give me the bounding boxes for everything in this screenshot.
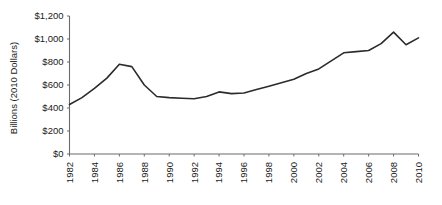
y-tick-label: $600 [42, 79, 63, 90]
x-tick-label: 1996 [238, 162, 249, 183]
x-tick-label: 2008 [388, 162, 399, 183]
x-tick-label: 1988 [139, 162, 150, 183]
x-tick-label: 1984 [89, 162, 100, 183]
y-tick-label: $1,000 [34, 33, 63, 44]
x-tick-label: 1986 [114, 162, 125, 183]
chart-axes [70, 16, 419, 154]
data-line-series-0 [70, 32, 419, 104]
y-axis-tick-labels: $0$200$400$600$800$1,000$1,200 [34, 10, 63, 159]
x-axis-tick-labels: 1982198419861988199019921994199619982000… [64, 162, 424, 183]
axis-tick-marks [67, 16, 419, 157]
line-chart: Billions (2010 Dollars) $0$200$400$600$8… [0, 0, 442, 205]
x-tick-label: 1994 [213, 162, 224, 183]
y-tick-label: $800 [42, 56, 63, 67]
x-tick-label: 1990 [164, 162, 175, 183]
y-axis-title-label: Billions (2010 Dollars) [8, 42, 19, 134]
x-tick-label: 1992 [189, 162, 200, 183]
y-tick-label: $400 [42, 102, 63, 113]
y-tick-label: $200 [42, 125, 63, 136]
y-tick-label: $0 [53, 148, 64, 159]
axis-lines [70, 16, 419, 154]
chart-container: Billions (2010 Dollars) $0$200$400$600$8… [0, 0, 442, 205]
data-series-group [70, 32, 419, 104]
x-tick-label: 2000 [288, 162, 299, 183]
x-tick-label: 2004 [338, 162, 349, 183]
x-tick-label: 1982 [64, 162, 75, 183]
x-tick-label: 1998 [263, 162, 274, 183]
x-tick-label: 2006 [363, 162, 374, 183]
y-tick-label: $1,200 [34, 10, 63, 21]
y-axis-title: Billions (2010 Dollars) [8, 42, 19, 134]
x-tick-label: 2002 [313, 162, 324, 183]
x-tick-label: 2010 [413, 162, 424, 183]
